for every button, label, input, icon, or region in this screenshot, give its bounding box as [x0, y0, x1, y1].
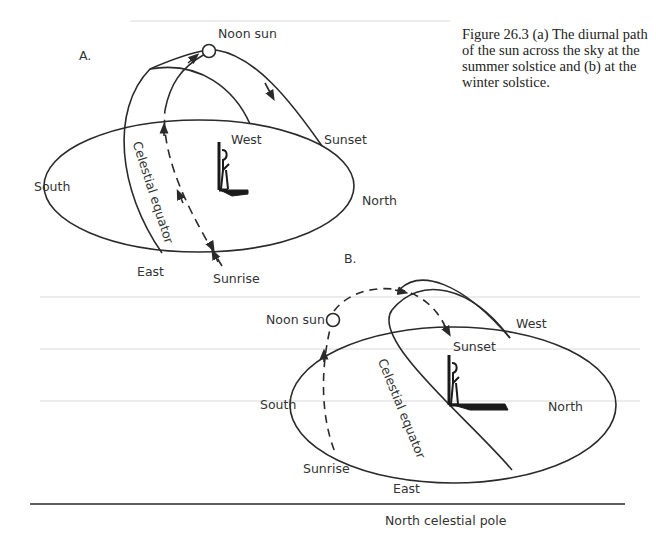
east-b-label: East — [393, 483, 420, 496]
south-b-label: South — [260, 399, 296, 412]
south-a-label: South — [34, 181, 70, 194]
noon-sun-b — [327, 314, 340, 327]
west-a-label: West — [231, 134, 262, 147]
panel-a-drawing — [44, 45, 354, 267]
panel-a-label: A. — [79, 50, 91, 63]
noon-sun-a — [203, 45, 216, 58]
sun-path-a-rising — [165, 110, 222, 266]
west-b-label: West — [516, 318, 547, 331]
noon-sun-a-label: Noon sun — [218, 28, 277, 41]
sunset-a-label: Sunset — [324, 134, 367, 147]
figure-caption: Figure 26.3 (a) The diurnal path of the … — [462, 26, 652, 90]
north-b-label: North — [548, 401, 583, 414]
sunset-b-label: Sunset — [453, 341, 496, 354]
noon-sun-b-label: Noon sun — [266, 314, 325, 327]
horizon-a — [44, 120, 354, 252]
east-a-label: East — [137, 266, 164, 279]
sun-path-b — [334, 289, 447, 331]
sunrise-a-label: Sunrise — [213, 273, 260, 286]
sunrise-b-label: Sunrise — [303, 463, 350, 476]
observer-figure-b — [449, 355, 508, 410]
panel-b-label: B. — [344, 253, 357, 266]
north-a-label: North — [362, 195, 397, 208]
observer-figure-a — [219, 142, 248, 196]
north-celestial-pole-label: North celestial pole — [385, 515, 506, 528]
